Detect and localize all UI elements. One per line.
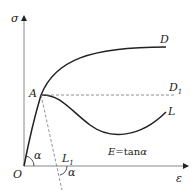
angle-arc-L1 <box>60 166 67 175</box>
curve-AL <box>41 95 166 134</box>
angle-alpha-L1: α <box>68 166 76 179</box>
point-A-label: A <box>28 87 37 100</box>
angle-alpha-origin: α <box>34 149 42 162</box>
dashed-line-AL1 <box>41 95 62 190</box>
angle-arc-origin <box>26 156 34 166</box>
equation-label: E=tanα <box>107 146 147 157</box>
origin-label: O <box>13 168 22 181</box>
y-axis-label: σ <box>11 12 19 25</box>
stress-strain-diagram: σ ε O A D D1 L L1 α α E=tanα <box>0 0 193 192</box>
x-axis-label: ε <box>176 172 182 185</box>
point-L1-label: L1 <box>61 152 74 167</box>
point-D-label: D <box>159 33 169 46</box>
curve-AD <box>41 47 166 95</box>
point-D1-label: D1 <box>168 81 182 96</box>
point-L-label: L <box>167 105 175 118</box>
